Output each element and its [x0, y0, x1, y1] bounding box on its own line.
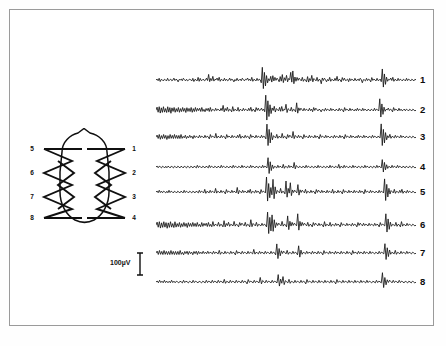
- channel-label-8: 8: [420, 277, 425, 287]
- channel-label-column: 1 2 3 4 5 6 7 8: [416, 56, 440, 304]
- channel-label-1: 1: [420, 75, 425, 85]
- figure-root: 5 6 7 8 1 2 3 4 100µV 1 2: [0, 0, 446, 346]
- montage-label-3: 3: [132, 193, 136, 200]
- eeg-trace-channel-2: [156, 95, 416, 120]
- channel-label-7: 7: [420, 248, 425, 258]
- channel-label-4: 4: [420, 162, 425, 172]
- head-montage-diagram: 5 6 7 8 1 2 3 4: [24, 128, 154, 246]
- eeg-trace-channel-4: [156, 158, 416, 174]
- eeg-trace-channel-1: [156, 67, 416, 88]
- montage-label-6: 6: [30, 169, 34, 176]
- eeg-trace-channel-5: [156, 177, 416, 201]
- montage-svg: 5 6 7 8 1 2 3 4: [24, 128, 154, 246]
- montage-label-4: 4: [132, 214, 136, 221]
- montage-label-7: 7: [30, 193, 34, 200]
- right-electrode-chain: [97, 149, 125, 218]
- channel-label-6: 6: [420, 220, 425, 230]
- eeg-traces-panel: [156, 56, 416, 304]
- montage-label-5: 5: [30, 145, 34, 152]
- montage-label-8: 8: [30, 214, 34, 221]
- eeg-trace-channel-3: [156, 124, 416, 146]
- figure-frame-border: 5 6 7 8 1 2 3 4 100µV 1 2: [9, 9, 434, 326]
- channel-label-2: 2: [420, 105, 425, 115]
- channel-label-3: 3: [420, 132, 425, 142]
- eeg-trace-channel-8: [156, 273, 416, 288]
- eeg-trace-channel-6: [156, 212, 416, 233]
- scalebar-bracket-icon: [137, 253, 143, 275]
- eeg-trace-channel-7: [156, 244, 416, 260]
- montage-label-2: 2: [132, 169, 136, 176]
- left-electrode-chain: [44, 149, 72, 218]
- channel-label-5: 5: [420, 187, 425, 197]
- montage-label-1: 1: [132, 145, 136, 152]
- head-outline-path: [60, 129, 109, 223]
- eeg-traces-svg: [156, 56, 416, 304]
